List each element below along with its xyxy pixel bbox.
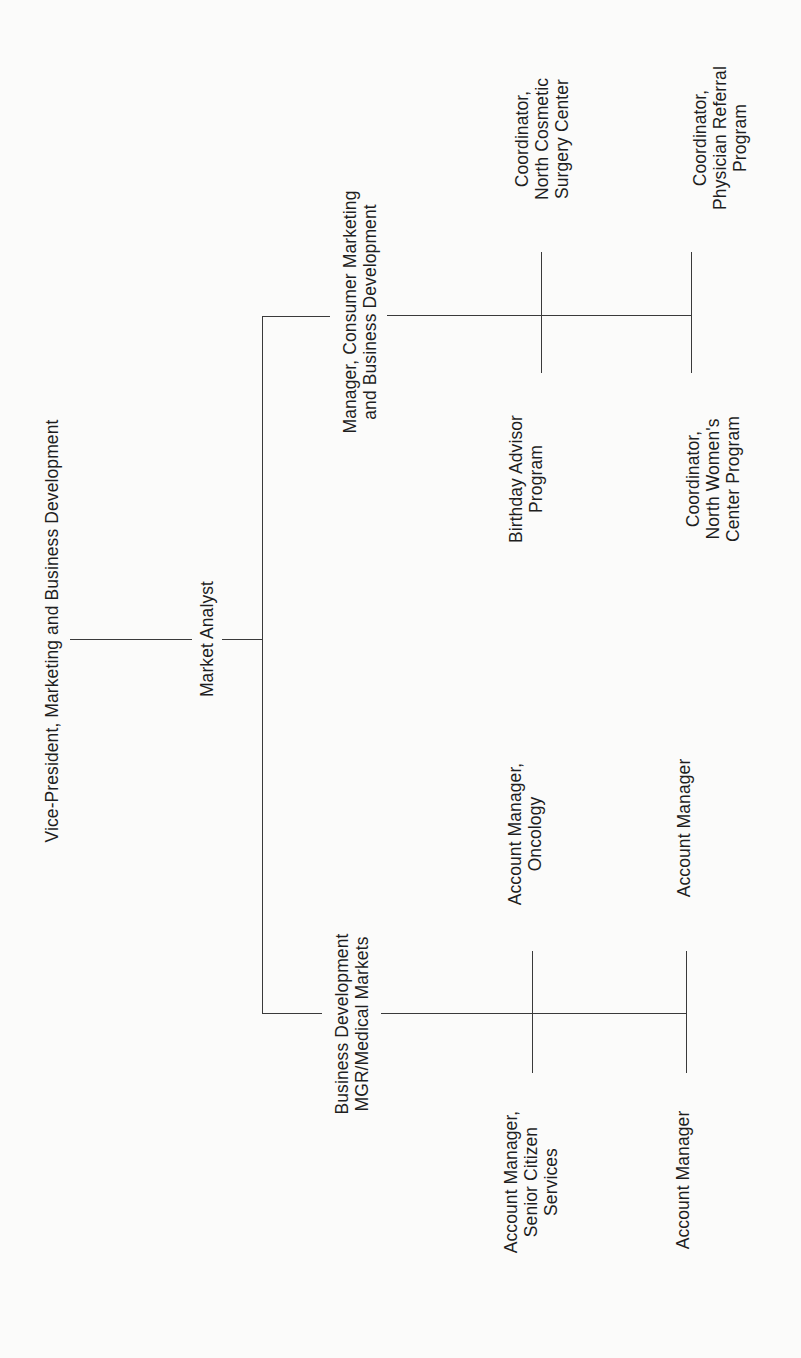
node-account-manager-upper: Account Manager xyxy=(669,733,699,923)
node-line-1: Account Manager xyxy=(673,1111,693,1250)
node-manager-consumer-marketing: Manager, Consumer Marketing and Business… xyxy=(332,145,388,479)
node-vp: Vice-President, Marketing and Business D… xyxy=(37,340,67,922)
node-line-2: and Business Development xyxy=(360,191,380,434)
node-account-manager-senior-citizen: Account Manager, Senior Citizen Services xyxy=(492,1084,570,1280)
node-line-1: Birthday Advisor xyxy=(506,415,526,543)
node-line-1: Account Manager xyxy=(674,759,694,898)
connector-branch-cosmetic-birthday xyxy=(541,252,542,373)
node-coordinator-cosmetic-surgery: Coordinator, North Cosmetic Surgery Cent… xyxy=(503,58,581,220)
node-line-2: North Cosmetic xyxy=(532,78,552,200)
node-market-analyst: Market Analyst xyxy=(192,560,222,718)
node-line-2: Physician Referral xyxy=(710,66,730,210)
connector-branch-physician-womens xyxy=(691,252,692,373)
node-line-1: Manager, Consumer Marketing xyxy=(340,191,360,434)
node-market-analyst-title: Market Analyst xyxy=(197,581,217,697)
connector-trunk xyxy=(262,316,263,1014)
node-line-3: Services xyxy=(541,1111,561,1254)
node-line-3: Surgery Center xyxy=(552,78,572,200)
node-bd-medical-markets: Business Development MGR/Medical Markets xyxy=(324,893,380,1155)
node-line-3: Center Program xyxy=(723,416,743,542)
node-coordinator-physician-referral: Coordinator, Physician Referral Program xyxy=(681,48,759,228)
node-line-3: Program xyxy=(730,66,750,210)
connector-branch-oncology-senior xyxy=(532,951,533,1073)
node-line-1: Coordinator, xyxy=(512,78,532,200)
node-line-2: North Women's xyxy=(703,416,723,542)
node-line-1: Business Development xyxy=(332,934,352,1115)
connector-mgr-consumer-branch xyxy=(387,315,692,316)
connector-bd-medical-branch xyxy=(381,1013,687,1014)
node-line-2: Senior Citizen xyxy=(521,1111,541,1254)
node-line-1: Coordinator, xyxy=(683,416,703,542)
node-account-manager-oncology: Account Manager, Oncology xyxy=(497,736,553,932)
connector-branch-am-pair xyxy=(686,951,687,1073)
node-line-1: Account Manager, xyxy=(501,1111,521,1254)
connector-vp-analyst xyxy=(70,639,192,640)
node-line-2: MGR/Medical Markets xyxy=(352,934,372,1115)
node-vp-title: Vice-President, Marketing and Business D… xyxy=(42,420,62,843)
node-line-1: Account Manager, xyxy=(505,763,525,906)
node-coordinator-womens-center: Coordinator, North Women's Center Progra… xyxy=(674,390,752,568)
connector-analyst-trunk xyxy=(222,639,262,640)
node-birthday-advisor: Birthday Advisor Program xyxy=(498,390,554,568)
connector-trunk-mgr-consumer xyxy=(262,316,330,317)
node-line-2: Program xyxy=(526,415,546,543)
node-account-manager-lower: Account Manager xyxy=(668,1084,698,1276)
node-line-1: Coordinator, xyxy=(690,66,710,210)
connector-trunk-bd-medical xyxy=(262,1013,322,1014)
node-line-2: Oncology xyxy=(525,763,545,906)
